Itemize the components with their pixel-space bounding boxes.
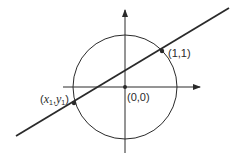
origin-label: (0,0) bbox=[127, 92, 150, 103]
diagram: (0,0) (1,1) (x1,y1) bbox=[0, 0, 243, 160]
point-1-1-label: (1,1) bbox=[168, 48, 191, 59]
diagram-canvas bbox=[0, 0, 243, 160]
point-1-1 bbox=[160, 49, 164, 53]
origin-point bbox=[123, 85, 127, 89]
point-x1-y1-label: (x1,y1) bbox=[40, 93, 69, 106]
secant-line bbox=[16, 8, 229, 136]
point-x1-y1 bbox=[72, 101, 76, 105]
